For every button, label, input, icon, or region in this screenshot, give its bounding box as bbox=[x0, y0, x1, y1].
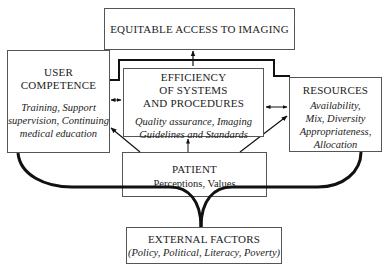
node-resources: RESOURCES Availability, Mix, Diversity A… bbox=[289, 77, 382, 152]
node-title: EFFICIENCY OF SYSTEMS AND PROCEDURES bbox=[143, 71, 244, 110]
curve-external-resources bbox=[201, 152, 361, 227]
node-user-competence: USER COMPETENCE Training, Support superv… bbox=[7, 50, 110, 153]
node-title: EQUITABLE ACCESS TO IMAGING bbox=[110, 23, 289, 36]
node-title: USER COMPETENCE bbox=[21, 66, 96, 92]
curve-external-user bbox=[18, 153, 201, 227]
node-equitable-access: EQUITABLE ACCESS TO IMAGING bbox=[104, 8, 295, 50]
node-details: Availability, Mix, Diversity Appropriate… bbox=[300, 99, 372, 151]
node-details: Quality assurance, Imaging Guidelines an… bbox=[135, 115, 252, 141]
node-details: (Policy, Political, Literacy, Poverty) bbox=[128, 246, 280, 259]
node-details: Training, Support supervision, Continuin… bbox=[8, 101, 109, 140]
node-efficiency: EFFICIENCY OF SYSTEMS AND PROCEDURES Qua… bbox=[123, 68, 264, 137]
node-external-factors: EXTERNAL FACTORS (Policy, Political, Lit… bbox=[126, 227, 282, 264]
node-title: EXTERNAL FACTORS bbox=[148, 233, 260, 246]
node-title: RESOURCES bbox=[303, 84, 368, 97]
